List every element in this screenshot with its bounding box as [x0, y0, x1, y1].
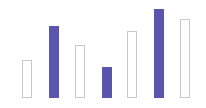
bar-chart — [0, 0, 206, 108]
bar-2 — [49, 26, 59, 98]
bar-4 — [102, 67, 112, 98]
bar-7 — [180, 19, 190, 98]
bar-1 — [22, 60, 32, 98]
bar-3 — [75, 45, 85, 98]
bar-6 — [154, 9, 164, 98]
bar-5 — [127, 31, 137, 98]
